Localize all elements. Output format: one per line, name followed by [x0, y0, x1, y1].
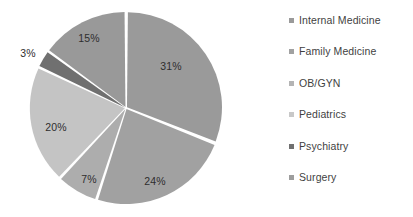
legend-swatch-icon — [289, 144, 294, 149]
chart-legend: Internal MedicineFamily MedicineOB/GYNPe… — [289, 14, 413, 204]
pie-slices-group — [30, 12, 222, 204]
legend-item-label: Family Medicine — [299, 45, 376, 57]
pie-chart-figure: 31%24%7%20%3%15% Internal MedicineFamily… — [0, 0, 413, 217]
pie-plot-area: 31%24%7%20%3%15% — [0, 0, 250, 217]
legend-swatch-icon — [289, 49, 294, 54]
legend-item-label: Surgery — [299, 171, 336, 183]
legend-item-label: Psychiatry — [299, 140, 348, 152]
legend-item[interactable]: Family Medicine — [289, 45, 413, 57]
legend-swatch-icon — [289, 81, 294, 86]
legend-item[interactable]: OB/GYN — [289, 77, 413, 89]
legend-swatch-icon — [289, 175, 294, 180]
legend-item[interactable]: Internal Medicine — [289, 14, 413, 26]
legend-item-label: Pediatrics — [299, 108, 346, 120]
legend-item[interactable]: Psychiatry — [289, 140, 413, 152]
legend-item-label: OB/GYN — [299, 77, 340, 89]
legend-item[interactable]: Surgery — [289, 171, 413, 183]
legend-item[interactable]: Pediatrics — [289, 108, 413, 120]
legend-swatch-icon — [289, 18, 294, 23]
legend-item-label: Internal Medicine — [299, 14, 381, 26]
legend-swatch-icon — [289, 112, 294, 117]
pie-svg — [0, 0, 250, 217]
